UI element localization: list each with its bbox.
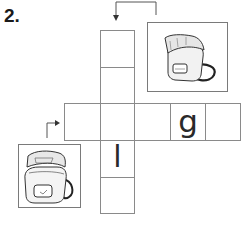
lunchbox-icon xyxy=(19,145,82,209)
down-cell-3[interactable] xyxy=(100,103,135,141)
down-cell-4[interactable]: l xyxy=(100,140,135,178)
clue-picture-across xyxy=(18,144,81,208)
down-cell-1[interactable] xyxy=(100,30,135,68)
clue-picture-down xyxy=(147,22,228,92)
down-cell-5[interactable] xyxy=(100,177,135,214)
across-cell-5[interactable] xyxy=(205,103,241,141)
across-cell-4[interactable]: g xyxy=(170,103,206,141)
letter-g: g xyxy=(171,106,205,137)
across-cell-1[interactable] xyxy=(64,103,101,141)
letter-l: l xyxy=(101,142,134,172)
lunchbox-icon xyxy=(148,23,229,93)
across-cell-3[interactable] xyxy=(134,103,171,141)
down-cell-2[interactable] xyxy=(100,67,135,104)
